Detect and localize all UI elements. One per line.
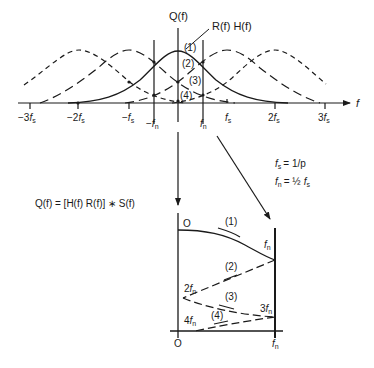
fold-4fn-label: 4fn [184, 315, 196, 327]
region-label-2: (2) [182, 58, 194, 69]
direction-arrow-2 [224, 275, 237, 280]
svg-text:−fn: −fn [146, 118, 159, 130]
fold-origin-top-label: O [183, 218, 191, 229]
tick-labels: −3fs −2fs −fs −fn fn fs 2fs 3fs [18, 112, 330, 130]
svg-text:3fs: 3fs [318, 112, 330, 124]
region-label-1: (1) [184, 42, 196, 53]
fold-seg-label-2: (2) [225, 261, 237, 272]
convolution-equation: Q(f) = [H(f) R(f)] ∗ S(f) [35, 198, 135, 209]
svg-text:−3fs: −3fs [18, 112, 36, 124]
fold-seg-label-1: (1) [225, 216, 237, 227]
region-label-4: (4) [180, 90, 192, 101]
fold-seg-label-3: (3) [225, 291, 237, 302]
fold-fn-top-label: fn [264, 239, 271, 251]
q-axis-label: Q(f) [169, 10, 188, 22]
svg-text:fs: fs [225, 112, 232, 124]
diagonal-arrow [217, 136, 270, 219]
f-axis-label: f [356, 97, 360, 109]
alias-curve-minus-fs [40, 50, 235, 103]
curve-label: R(f) H(f) [212, 20, 252, 32]
alias-curve-minus-2fs [24, 50, 185, 103]
svg-text:−2fs: −2fs [67, 112, 85, 124]
fold-3fn-label: 3fn [260, 303, 272, 315]
fold-segment-4 [195, 317, 275, 331]
region-label-3: (3) [189, 75, 201, 86]
direction-arrow-4 [214, 321, 228, 324]
fold-origin-bottom-label: O [174, 338, 182, 349]
fold-segment-1 [178, 230, 275, 260]
svg-text:2fs: 2fs [268, 112, 280, 124]
fold-2fn-label: 2fn [184, 283, 196, 295]
direction-arrow-3 [219, 305, 234, 309]
fs-definition: fs= 1/p [275, 158, 306, 170]
fold-seg-label-4: (4) [211, 310, 223, 321]
fn-definition: fn= ½fs [275, 176, 310, 188]
fold-fn-bottom-label: fn [272, 338, 279, 350]
svg-text:−fs: −fs [122, 112, 135, 124]
aliasing-diagram: Q(f) R(f) H(f) f (1) (2) (3) (4) −3fs −2… [0, 0, 374, 368]
